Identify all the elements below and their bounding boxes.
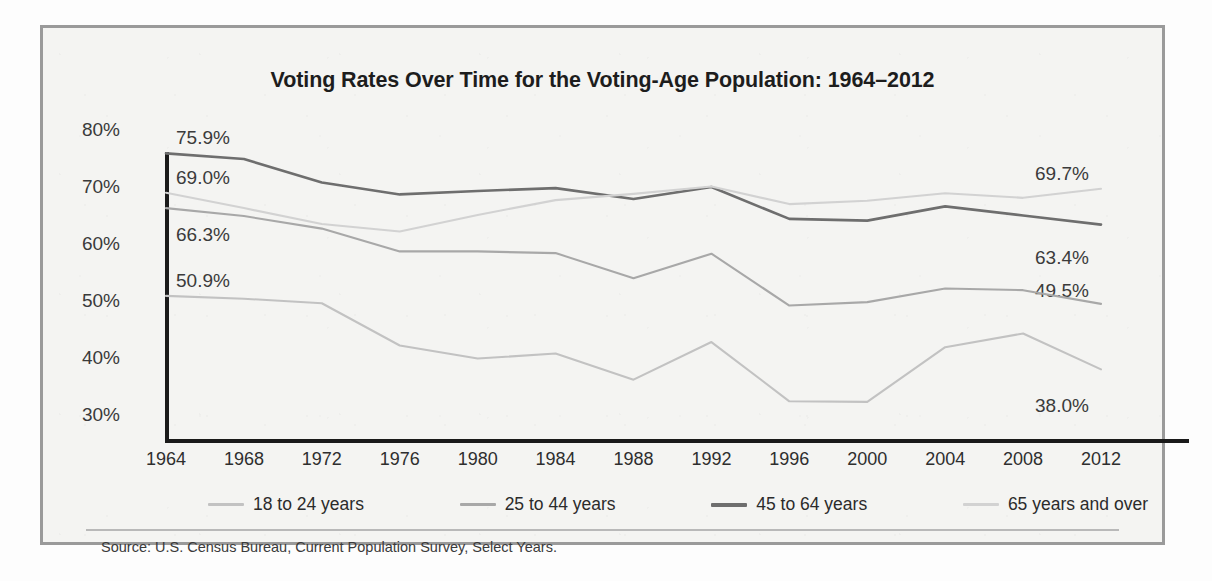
x-axis-tick-label: 2008 <box>983 449 1063 470</box>
x-axis-tick-label: 1996 <box>749 449 829 470</box>
legend-item[interactable]: 18 to 24 years <box>208 494 364 515</box>
x-axis-tick-label: 1972 <box>282 449 362 470</box>
x-axis-tick-label: 1984 <box>516 449 596 470</box>
data-label-left: 75.9% <box>176 127 230 149</box>
data-label-left: 66.3% <box>176 224 230 246</box>
legend-item[interactable]: 65 years and over <box>963 494 1148 515</box>
page-background: Voting Rates Over Time for the Voting-Ag… <box>0 0 1212 581</box>
x-axis-tick-label: 2004 <box>905 449 985 470</box>
x-axis-tick-label: 1980 <box>438 449 518 470</box>
legend-line-icon <box>711 503 747 507</box>
x-axis-tick-label: 1988 <box>594 449 674 470</box>
legend-item[interactable]: 25 to 44 years <box>460 494 616 515</box>
legend-item-label: 45 to 64 years <box>756 494 867 515</box>
legend-item-label: 25 to 44 years <box>505 494 616 515</box>
legend-item[interactable]: 45 to 64 years <box>711 494 867 515</box>
series-line <box>166 153 1101 224</box>
data-label-right: 49.5% <box>1035 280 1089 302</box>
series-line <box>166 208 1101 305</box>
y-axis-tick-label: 60% <box>58 233 120 255</box>
y-axis-tick-label: 30% <box>58 404 120 426</box>
series-line <box>166 296 1101 402</box>
y-axis-tick-label: 80% <box>58 119 120 141</box>
x-axis-line <box>165 439 1189 443</box>
x-axis-tick-label: 1976 <box>360 449 440 470</box>
figure-container: Voting Rates Over Time for the Voting-Ag… <box>40 25 1165 545</box>
legend-item-label: 65 years and over <box>1008 494 1148 515</box>
y-axis-tick-label: 70% <box>58 176 120 198</box>
x-axis-tick-label: 1968 <box>204 449 284 470</box>
chart-legend: 18 to 24 years25 to 44 years45 to 64 yea… <box>168 494 1183 515</box>
legend-line-icon <box>963 503 999 506</box>
x-axis-tick-label: 1992 <box>671 449 751 470</box>
data-label-right: 38.0% <box>1035 395 1089 417</box>
x-axis-tick-label: 2000 <box>827 449 907 470</box>
source-note: Source: U.S. Census Bureau, Current Popu… <box>101 539 557 555</box>
data-label-right: 63.4% <box>1035 247 1089 269</box>
source-divider <box>86 529 1119 531</box>
series-line <box>166 186 1101 231</box>
data-label-right: 69.7% <box>1035 163 1089 185</box>
x-axis-tick-label: 1964 <box>126 449 206 470</box>
data-label-left: 69.0% <box>176 167 230 189</box>
y-axis-tick-label: 50% <box>58 290 120 312</box>
data-label-left: 50.9% <box>176 270 230 292</box>
legend-item-label: 18 to 24 years <box>253 494 364 515</box>
y-axis-line <box>165 152 169 443</box>
legend-line-icon <box>208 503 244 506</box>
legend-line-icon <box>460 503 496 506</box>
x-axis-tick-label: 2012 <box>1061 449 1141 470</box>
page-title: Voting Rates Over Time for the Voting-Ag… <box>43 68 1162 93</box>
y-axis-tick-label: 40% <box>58 347 120 369</box>
